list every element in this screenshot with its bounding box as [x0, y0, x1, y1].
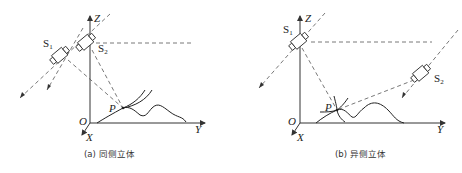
origin-label: O: [79, 115, 87, 127]
x-axis-label: X: [85, 131, 94, 143]
point-p-marker: [336, 109, 339, 112]
x-axis-label: X: [296, 131, 305, 143]
caption-a: (a) 同侧立体: [84, 149, 135, 159]
camera-s1-label: S1: [283, 23, 293, 37]
caption-b: (b) 异侧立体: [335, 149, 386, 159]
camera-s1-label: S1: [43, 37, 53, 51]
stereo-diagram: Z Y X O S1 S2 P (a) 同侧立体: [0, 0, 462, 173]
camera-s2-icon: [409, 63, 432, 84]
point-p-label: P: [108, 102, 116, 114]
camera-s2-label: S2: [98, 42, 108, 56]
z-axis-label: Z: [94, 12, 101, 24]
s1-optical-axis: [259, 13, 325, 88]
arrow-icon: [402, 92, 406, 98]
y-axis-label: Y: [195, 123, 203, 135]
point-p-marker: [122, 107, 125, 110]
camera-s2-icon: [74, 32, 97, 53]
s1-ray-to-p: [302, 48, 337, 110]
panel-b-opposite-side-stereo: Z Y X O S1 S2 P (b) 异侧立体: [259, 12, 458, 159]
arrow-icon: [20, 92, 25, 98]
panel-a-same-side-stereo: Z Y X O S1 S2 P (a) 同侧立体: [20, 12, 205, 159]
s2-optical-axis: [402, 30, 458, 98]
s1-ray-to-p: [68, 60, 123, 108]
s2-ray-to-p: [337, 80, 414, 110]
point-p-label: P: [324, 101, 332, 113]
z-axis-label: Z: [305, 12, 312, 24]
y-axis-label: Y: [437, 123, 445, 135]
origin-label: O: [288, 115, 296, 127]
camera-s2-label: S2: [434, 72, 444, 86]
s2-ray-to-p: [92, 50, 123, 108]
